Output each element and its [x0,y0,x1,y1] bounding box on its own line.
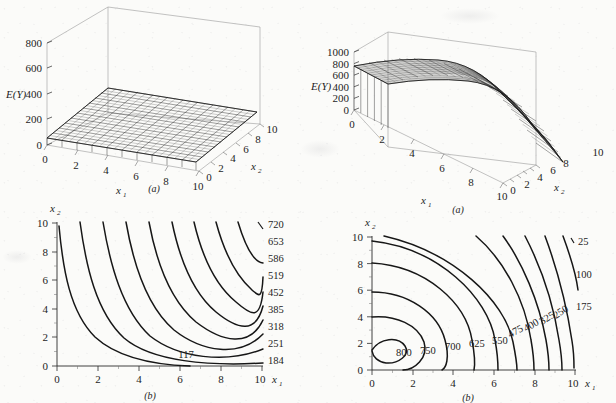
cl-x-tick-6: 6 [177,373,183,385]
z-tick-600: 600 [26,62,43,74]
x2-2-tick-4: 4 [537,171,543,183]
z2-tick-400: 400 [333,81,350,93]
x2-axis-label-2: x 2 [553,181,565,196]
cl-y-tick-4: 4 [43,303,49,315]
svg-text:x: x [115,184,121,196]
x1-2-tick-6: 6 [439,162,445,174]
z2-tick-800: 800 [333,58,350,70]
svg-text:2: 2 [561,188,565,196]
cr-y-tick-6: 6 [358,284,364,296]
x2-2-tick-10: 10 [593,146,605,158]
cr-y-tick-8: 8 [358,258,364,270]
cr-x-tick-0: 0 [369,377,375,389]
cr-x-axis-label: x 1 [584,377,596,392]
x1-axis-label: x 1 [115,184,127,199]
contour-label-750: 750 [420,345,436,356]
z-tick-800: 800 [26,37,43,49]
contour-label-385: 385 [268,304,284,315]
axis-box-frame [47,7,260,171]
contour-label-550: 550 [492,335,508,346]
cr-y-tick-10: 10 [352,231,364,243]
surface-mesh-dome-fine [356,58,561,160]
cl-x-tick-0: 0 [54,373,60,385]
cr-y-tick-0: 0 [358,364,364,376]
x2-tick-4: 4 [230,152,236,164]
contour-720-marker [258,222,263,229]
z2-tick-0: 0 [344,104,350,116]
svg-text:1: 1 [592,384,596,392]
contour-25-marker [571,238,574,243]
x1-2-tick-4: 4 [409,147,415,159]
svg-text:x: x [271,373,277,385]
cl-y-tick-2: 2 [43,331,49,343]
contour-label-800: 800 [396,347,412,358]
x2-tick-8: 8 [255,133,261,145]
cr-y-axis-label: x 2 [364,216,376,231]
z-axis-label: E(Y) [5,88,27,101]
svg-text:x: x [584,377,590,389]
svg-text:2: 2 [372,223,376,231]
x2-tick-6: 6 [243,143,249,155]
svg-text:1: 1 [123,191,127,199]
contour-plot-quadratic: 10 8 6 4 2 0 x 2 0 2 4 6 8 [308,200,616,403]
x1-2-tick-2: 2 [379,133,385,145]
z2-tick-1000: 1000 [327,46,350,58]
surface-outline-dome [354,59,563,162]
cr-y-tick-4: 4 [358,311,364,323]
cl-x-tick-4: 4 [136,373,142,385]
z-tick-0: 0 [37,139,43,151]
panel-caption-a-left: (a) [148,183,160,195]
contour-label-625: 625 [469,338,485,349]
contour-plot-linear: 10 8 6 4 2 0 x 2 0 2 4 6 [0,200,308,403]
z-tick-200: 200 [26,113,43,125]
cl-y-tick-10: 10 [37,217,49,229]
z-axis-ticks-2 [354,50,359,110]
cl-y-tick-6: 6 [43,274,49,286]
surface-mesh-dome [354,59,563,162]
x1-tick-4: 4 [103,164,109,176]
cr-x-tick-2: 2 [410,377,416,389]
x2-tick-10: 10 [267,123,279,135]
svg-text:x: x [49,202,55,214]
cr-x-tick-10: 10 [568,377,580,389]
x1-tick-2: 2 [73,159,79,171]
contour-label-586: 586 [268,253,284,264]
z2-tick-600: 600 [333,69,350,81]
svg-text:x: x [250,160,256,172]
x2-tick-2: 2 [218,162,224,174]
contour-label-175: 175 [576,301,592,312]
z2-tick-200: 200 [333,92,350,104]
surface-plot-quadratic: 1000 800 600 400 200 0 E(Y) [308,0,616,215]
contour-label-25: 25 [578,236,589,247]
svg-text:2: 2 [57,209,61,217]
x1-tick-0: 0 [42,153,48,165]
cl-x-tick-2: 2 [95,373,101,385]
panel-caption-b-right: (b) [462,392,474,403]
x1-tick-10: 10 [193,180,205,192]
panel-top-left-surface: 800 600 400 200 0 E(Y) [0,0,308,200]
panel-top-right-surface: 1000 800 600 400 200 0 E(Y) [308,0,616,215]
cr-y-tick-2: 2 [358,337,364,349]
cr-x-tick-8: 8 [532,377,538,389]
contour-label-720: 720 [268,219,284,230]
x1-axis-ticks-2 [351,110,503,188]
cl-y-tick-8: 8 [43,246,49,258]
contour-label-184: 184 [268,355,285,366]
cr-x-tick-6: 6 [491,377,497,389]
cl-y-axis-label: x 2 [49,202,61,217]
x2-tick-0: 0 [206,171,212,183]
contour-label-100: 100 [576,269,592,280]
contour-label-519: 519 [268,270,284,281]
contour-label-452: 452 [268,287,284,298]
svg-text:1: 1 [279,380,283,388]
x2-axis-label: x 2 [250,160,262,175]
svg-text:x: x [553,181,559,193]
svg-text:2: 2 [258,167,262,175]
panel-bottom-left-contour: 10 8 6 4 2 0 x 2 0 2 4 6 [0,200,308,403]
contour-label-251: 251 [268,338,284,349]
contour-label-653: 653 [268,236,284,247]
y-axis-minor-ticks-right [369,250,372,356]
contour-label-117: 117 [178,349,193,360]
x1-2-tick-0: 0 [349,118,355,130]
surface-plot-linear: 800 600 400 200 0 E(Y) [0,0,308,200]
